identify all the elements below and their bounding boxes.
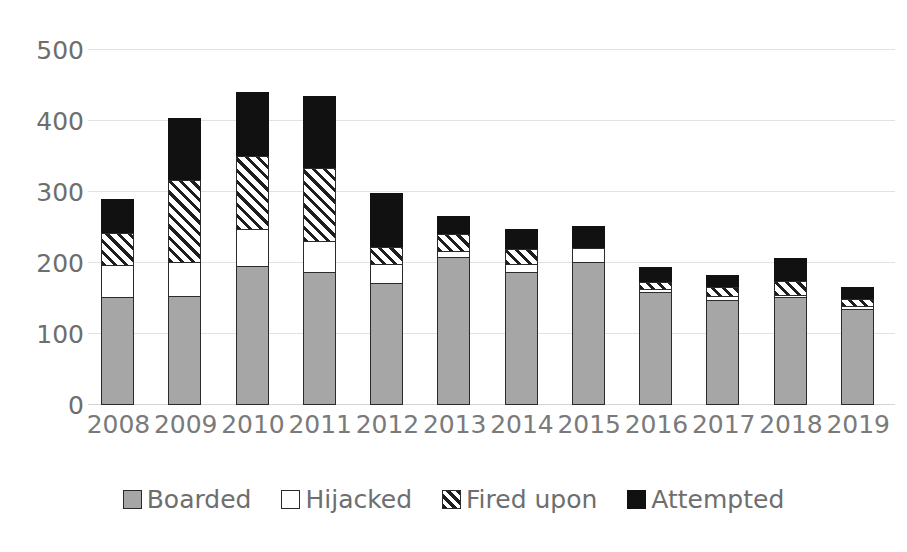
bar-stack [841, 287, 874, 405]
bar-group-2008[interactable] [101, 199, 134, 405]
y-axis-tick-label: 100 [6, 322, 84, 347]
bar-stack [572, 226, 605, 405]
y-axis-tick-label: 400 [6, 109, 84, 134]
bar-segment-attempted[interactable] [505, 229, 538, 250]
legend-label: Hijacked [305, 487, 412, 512]
bar-stack [774, 258, 807, 405]
legend-label: Attempted [651, 487, 784, 512]
bar-stack [370, 193, 403, 405]
bar-segment-attempted[interactable] [168, 118, 201, 180]
bar-segment-hijacked[interactable] [303, 241, 336, 273]
bar-stack [706, 275, 739, 405]
x-axis-tick-label: 2013 [423, 410, 485, 440]
bar-segment-fired-upon[interactable] [774, 281, 807, 295]
bar-segment-boarded[interactable] [168, 296, 201, 405]
y-axis-tick-label: 0 [6, 393, 84, 418]
bar-segment-hijacked[interactable] [572, 248, 605, 264]
bar-group-2015[interactable] [572, 226, 605, 405]
bar-group-2016[interactable] [639, 267, 672, 405]
bar-segment-fired-upon[interactable] [505, 249, 538, 265]
bar-segment-boarded[interactable] [639, 292, 672, 405]
bar-segment-hijacked[interactable] [236, 229, 269, 267]
bar-segment-hijacked[interactable] [370, 264, 403, 284]
bar-segment-boarded[interactable] [774, 297, 807, 405]
bar-group-2010[interactable] [236, 92, 269, 405]
bar-segment-boarded[interactable] [572, 262, 605, 405]
legend-item-boarded[interactable]: Boarded [123, 487, 252, 512]
x-axis-tick-label: 2012 [356, 410, 418, 440]
legend-item-hijacked[interactable]: Hijacked [281, 487, 412, 512]
bar-segment-attempted[interactable] [437, 216, 470, 235]
bar-stack [303, 96, 336, 405]
x-axis-tick-label: 2019 [826, 410, 888, 440]
bar-segment-fired-upon[interactable] [168, 180, 201, 263]
legend-label: Fired upon [466, 487, 597, 512]
bar-segment-attempted[interactable] [236, 92, 269, 157]
x-axis-tick-label: 2014 [490, 410, 552, 440]
bar-group-2012[interactable] [370, 193, 403, 405]
x-axis-tick-label: 2010 [221, 410, 283, 440]
bar-stack [101, 199, 134, 405]
bar-group-2011[interactable] [303, 96, 336, 405]
bar-stack [639, 267, 672, 405]
bar-segment-boarded[interactable] [505, 272, 538, 405]
bar-stack [505, 229, 538, 405]
bar-segment-attempted[interactable] [101, 199, 134, 234]
y-axis-tick-label: 500 [6, 38, 84, 63]
x-axis: 2008200920102011201220132014201520162017… [88, 410, 895, 450]
y-axis-tick-label: 300 [6, 180, 84, 205]
bar-stack [168, 118, 201, 405]
bar-group-2014[interactable] [505, 229, 538, 405]
hatched-swatch [442, 490, 461, 509]
bar-segment-boarded[interactable] [841, 309, 874, 405]
bar-segment-fired-upon[interactable] [370, 247, 403, 265]
bar-stack [236, 92, 269, 405]
legend-label: Boarded [147, 487, 252, 512]
bar-segment-boarded[interactable] [370, 283, 403, 405]
x-axis-tick-label: 2015 [557, 410, 619, 440]
bars-layer [88, 50, 895, 405]
stacked-bar-chart: 5004003002001000 20082009201020112012201… [0, 0, 907, 552]
bar-segment-boarded[interactable] [236, 266, 269, 405]
bar-segment-hijacked[interactable] [168, 262, 201, 298]
bar-segment-attempted[interactable] [370, 193, 403, 248]
solid-black-swatch [627, 490, 646, 509]
bar-segment-attempted[interactable] [639, 267, 672, 283]
bar-segment-boarded[interactable] [437, 257, 470, 405]
bar-segment-boarded[interactable] [303, 272, 336, 405]
x-axis-tick-label: 2018 [759, 410, 821, 440]
x-axis-tick-label: 2016 [625, 410, 687, 440]
bar-segment-boarded[interactable] [101, 297, 134, 405]
legend-item-attempted[interactable]: Attempted [627, 487, 784, 512]
x-axis-tick-label: 2017 [692, 410, 754, 440]
bar-segment-attempted[interactable] [572, 226, 605, 249]
bar-segment-attempted[interactable] [774, 258, 807, 282]
bar-segment-attempted[interactable] [303, 96, 336, 169]
x-axis-tick-label: 2008 [87, 410, 149, 440]
bar-segment-fired-upon[interactable] [101, 233, 134, 266]
bar-segment-fired-upon[interactable] [303, 168, 336, 242]
solid-gray-swatch [123, 490, 142, 509]
bar-segment-fired-upon[interactable] [437, 234, 470, 252]
bar-group-2017[interactable] [706, 275, 739, 405]
bar-segment-hijacked[interactable] [101, 265, 134, 298]
bar-group-2013[interactable] [437, 216, 470, 405]
y-axis-tick-label: 200 [6, 251, 84, 276]
y-axis: 5004003002001000 [0, 0, 84, 552]
bar-stack [437, 216, 470, 405]
bar-group-2009[interactable] [168, 118, 201, 405]
bar-segment-boarded[interactable] [706, 300, 739, 405]
solid-white-swatch [281, 490, 300, 509]
bar-segment-fired-upon[interactable] [236, 156, 269, 229]
legend-item-fired-upon[interactable]: Fired upon [442, 487, 597, 512]
bar-group-2019[interactable] [841, 287, 874, 405]
x-axis-tick-label: 2009 [154, 410, 216, 440]
bar-group-2018[interactable] [774, 258, 807, 405]
bar-segment-attempted[interactable] [706, 275, 739, 288]
chart-legend: BoardedHijackedFired uponAttempted [0, 487, 907, 512]
x-axis-tick-label: 2011 [288, 410, 350, 440]
